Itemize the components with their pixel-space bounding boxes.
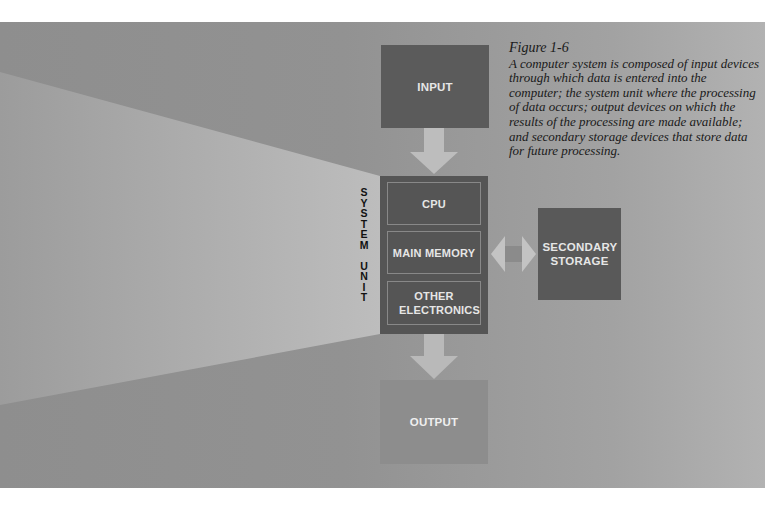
figure-caption: Figure 1-6 A computer system is composed…: [509, 41, 759, 159]
arrow-system-to-output: [410, 334, 458, 379]
cpu-label: CPU: [422, 197, 446, 211]
cpu-box: CPU: [387, 182, 481, 225]
arrow-memory-secondary-bidirectional: [491, 236, 536, 272]
other-electronics-label: OTHER ELECTRONICS: [399, 289, 469, 317]
figure-number: Figure 1-6: [509, 41, 759, 56]
system-unit-box: CPU MAIN MEMORY OTHER ELECTRONICS: [380, 176, 488, 334]
secondary-storage-label: SECONDARY STORAGE: [543, 240, 617, 268]
system-unit-label: S Y S T E M U N I T: [357, 187, 371, 303]
main-memory-box: MAIN MEMORY: [387, 231, 481, 274]
figure-panel: INPUT S Y S T E M U N I T CPU MAIN MEMOR…: [0, 22, 765, 488]
figure-caption-text: A computer system is composed of input d…: [509, 56, 759, 159]
main-memory-label: MAIN MEMORY: [393, 246, 475, 260]
input-box: INPUT: [381, 45, 489, 128]
output-label: OUTPUT: [410, 415, 458, 429]
input-label: INPUT: [417, 80, 453, 94]
output-box: OUTPUT: [380, 380, 488, 464]
other-electronics-box: OTHER ELECTRONICS: [387, 281, 481, 325]
arrow-input-to-system: [410, 128, 458, 174]
secondary-storage-box: SECONDARY STORAGE: [538, 208, 621, 300]
